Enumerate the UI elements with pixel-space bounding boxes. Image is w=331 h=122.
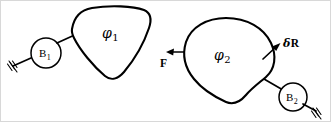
body-1-label: B1 bbox=[39, 48, 51, 62]
region-2-label: φ2 bbox=[214, 48, 231, 65]
link-region-2-to-body-2 bbox=[264, 79, 283, 90]
body-2-label: B2 bbox=[286, 92, 298, 106]
region-2-symbol: φ bbox=[214, 47, 224, 63]
force-symbol: F bbox=[160, 57, 167, 69]
ground-hatch-icon-left bbox=[8, 61, 18, 72]
arrow-left-icon bbox=[166, 49, 174, 56]
region-1-label: φ1 bbox=[102, 26, 119, 43]
displacement-delta: δ bbox=[283, 37, 291, 50]
displacement-label: δR bbox=[283, 38, 299, 50]
region-1-symbol: φ bbox=[102, 25, 112, 41]
force-label: F bbox=[160, 58, 167, 70]
displacement-symbol: R bbox=[291, 37, 299, 49]
region-2-subscript: 2 bbox=[224, 54, 231, 65]
body-1-subscript: 1 bbox=[46, 53, 50, 62]
body-2-subscript: 2 bbox=[293, 97, 297, 106]
region-1-subscript: 1 bbox=[112, 32, 119, 43]
link-ground-to-body-1 bbox=[13, 58, 31, 66]
figure-canvas: φ1 φ2 B1 B2 F δR bbox=[0, 0, 331, 122]
